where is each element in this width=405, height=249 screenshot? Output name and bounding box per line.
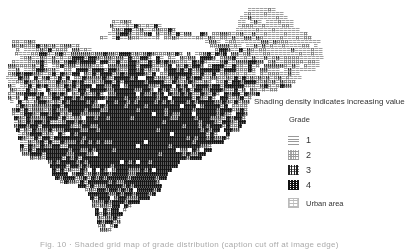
urban-area-swatch-icon — [288, 198, 299, 208]
legend-title: Shading density indicates increasing val… — [254, 97, 405, 106]
legend-label: 4 — [306, 180, 311, 190]
grade-3-swatch-icon — [288, 165, 299, 175]
legend-label: Urban area — [306, 199, 344, 208]
legend-item-urban-area: Urban area — [288, 198, 344, 208]
legend-item-grade-3: 3 — [288, 165, 311, 175]
legend-label: 3 — [306, 165, 311, 175]
figure-caption: Fig. 10 · Shaded grid map of grade distr… — [40, 240, 339, 249]
legend-item-grade-4: 4 — [288, 180, 311, 190]
legend-label: 2 — [306, 150, 311, 160]
legend-item-grade-1: 1 — [288, 135, 311, 145]
legend-label: 1 — [306, 135, 311, 145]
legend-item-grade-2: 2 — [288, 150, 311, 160]
legend-grade-heading: Grade — [289, 115, 310, 124]
grade-2-swatch-icon — [288, 150, 299, 160]
grade-1-swatch-icon — [288, 135, 299, 145]
grade-4-swatch-icon — [288, 180, 299, 190]
